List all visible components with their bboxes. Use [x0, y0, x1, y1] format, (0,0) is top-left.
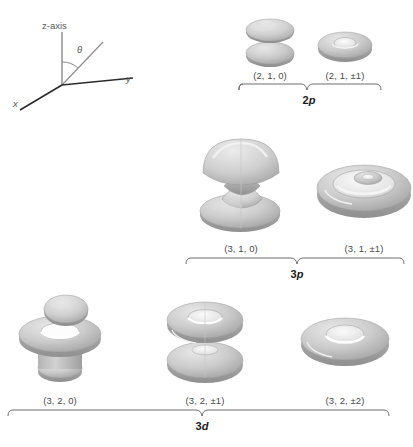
shell-label-3d-l: d	[202, 420, 209, 432]
shell-label-3p: 3p	[291, 268, 304, 280]
figure-graphics	[0, 0, 413, 447]
orbital-3-2-0	[19, 295, 101, 382]
shell-label-2p-l: p	[309, 94, 316, 106]
orbital-2-1-pm1	[318, 32, 372, 62]
orbital-label-3-2-pm2: (3, 2, ±2)	[326, 395, 365, 406]
shell-label-2p: 2p	[303, 94, 316, 106]
brace-3d	[8, 410, 389, 416]
orbital-label-3-1-pm1: (3, 1, ±1)	[345, 243, 384, 254]
orbital-2-1-0	[246, 19, 294, 67]
orbital-3-1-pm1	[317, 165, 411, 218]
orbital-3-2-pm1	[167, 302, 243, 383]
orbital-label-3-2-0: (3, 2, 0)	[43, 395, 77, 406]
orbital-3-1-0	[200, 139, 280, 232]
orbital-3-2-pm2	[301, 318, 389, 366]
orbital-label-3-2-pm1: (3, 2, ±1)	[186, 395, 225, 406]
shell-label-3p-l: p	[297, 268, 304, 280]
axis-label-z: z-axis	[42, 20, 67, 31]
axis-label-y: y	[126, 73, 131, 84]
axis-label-x: x	[13, 98, 18, 109]
orbital-label-3-1-0: (3, 1, 0)	[224, 243, 258, 254]
axis-label-theta: θ	[77, 44, 82, 55]
brace-2p	[239, 84, 381, 90]
orbital-figure: z-axis θ x y (2, 1, 0) (2, 1, ±1) 2p (3,…	[0, 0, 413, 447]
shell-label-3d: 3d	[196, 420, 209, 432]
brace-3p	[186, 258, 404, 264]
orbital-label-2-1-pm1: (2, 1, ±1)	[326, 70, 365, 81]
orbital-label-2-1-0: (2, 1, 0)	[253, 70, 287, 81]
